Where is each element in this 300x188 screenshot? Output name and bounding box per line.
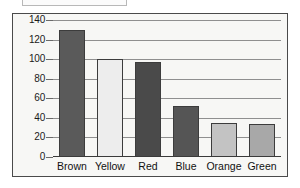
y-axis-tick-label: 40 xyxy=(34,113,45,123)
title-box xyxy=(22,0,127,6)
bar-group xyxy=(53,20,281,157)
y-axis-tick-label: 0 xyxy=(40,152,45,162)
bar-orange xyxy=(211,123,238,157)
y-axis-tick-label: 100 xyxy=(29,54,45,64)
y-axis-tick-label: 80 xyxy=(34,74,45,84)
y-axis-tick-mark xyxy=(46,98,53,99)
x-axis-tick-label: Yellow xyxy=(91,160,129,173)
chart-frame: 020406080100120140 BrownYellowRedBlueOra… xyxy=(12,13,288,177)
bar-brown xyxy=(59,30,86,157)
x-axis-labels: BrownYellowRedBlueOrangeGreen xyxy=(53,160,281,174)
y-axis-tick-mark xyxy=(46,79,53,80)
x-axis-tick-label: Orange xyxy=(205,160,243,173)
y-axis-tick-mark xyxy=(46,20,53,21)
bar-blue xyxy=(173,106,200,157)
y-axis-tick-label: 20 xyxy=(34,132,45,142)
bar-yellow xyxy=(97,59,124,157)
y-axis-tick-mark xyxy=(46,137,53,138)
y-axis-tick-mark xyxy=(46,59,53,60)
plot-area xyxy=(53,20,281,157)
y-axis-labels: 020406080100120140 xyxy=(17,20,45,157)
y-axis-tick-mark xyxy=(46,40,53,41)
bar-red xyxy=(135,62,162,157)
y-axis-tick-label: 120 xyxy=(29,35,45,45)
chart-plot-wrapper: 020406080100120140 BrownYellowRedBlueOra… xyxy=(13,14,287,176)
x-axis-tick-label: Blue xyxy=(167,160,205,173)
y-axis-tick-mark xyxy=(46,157,53,158)
x-axis-tick-label: Brown xyxy=(53,160,91,173)
bar-green xyxy=(249,124,276,157)
y-axis-tick-label: 60 xyxy=(34,93,45,103)
x-axis-tick-label: Red xyxy=(129,160,167,173)
chart-screenshot: 020406080100120140 BrownYellowRedBlueOra… xyxy=(0,0,300,188)
y-axis-tick-mark xyxy=(46,118,53,119)
x-axis-tick-label: Green xyxy=(243,160,281,173)
y-axis-tick-label: 140 xyxy=(29,15,45,25)
x-axis-line xyxy=(53,156,281,157)
